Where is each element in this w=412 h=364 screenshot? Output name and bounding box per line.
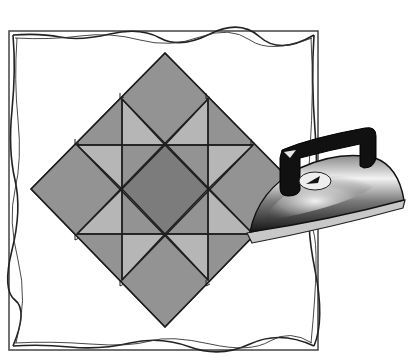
quilt-block bbox=[31, 53, 299, 327]
illustration bbox=[0, 0, 412, 364]
